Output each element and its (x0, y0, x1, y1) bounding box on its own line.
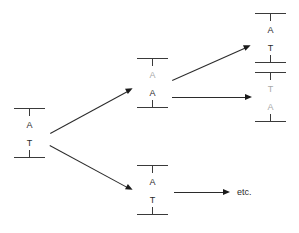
arrow-head-icon (223, 189, 230, 195)
duplex-top-base: A (137, 178, 168, 187)
arrow-shaft (50, 91, 128, 134)
etc-label: etc. (237, 187, 252, 197)
duplex-top-tick (152, 59, 153, 66)
arrow-shaft (174, 192, 224, 193)
duplex-top-tick (29, 109, 30, 116)
parent-duplex: A T (14, 108, 45, 164)
duplex-top-tick (270, 14, 271, 21)
duplex-bottom-bar (137, 214, 168, 215)
duplex-top-tick (270, 73, 271, 80)
arrow-parent-to-mismatch (50, 88, 133, 133)
duplex-bottom-tick (29, 150, 30, 157)
duplex-top-base: A (137, 71, 168, 80)
duplex-bottom-base: A (255, 103, 286, 112)
arrow-shaft (172, 97, 246, 98)
duplex-bottom-base: T (137, 196, 168, 205)
duplex-bottom-tick (152, 207, 153, 214)
duplex-top-base: A (255, 26, 286, 35)
duplex-bottom-base: T (255, 44, 286, 53)
arrow-head-icon (125, 86, 134, 95)
duplex-top-tick (152, 166, 153, 173)
duplex-top-base: T (255, 85, 286, 94)
arrow-mismatch-to-restored (172, 44, 252, 80)
normal-duplex: A T (137, 165, 168, 221)
arrow-shaft (172, 48, 246, 81)
restored-duplex: A T (255, 13, 286, 69)
arrow-head-icon (245, 94, 252, 100)
mismatch-duplex: A A (137, 58, 168, 114)
duplex-bottom-bar (255, 62, 286, 63)
arrow-parent-to-normal (50, 145, 133, 190)
arrow-shaft (50, 145, 128, 188)
arrow-head-icon (125, 184, 134, 193)
duplex-bottom-base: A (137, 89, 168, 98)
duplex-bottom-tick (270, 55, 271, 62)
arrow-head-icon (243, 42, 252, 50)
duplex-bottom-tick (270, 114, 271, 121)
duplex-top-base: A (14, 121, 45, 130)
duplex-bottom-bar (137, 107, 168, 108)
mutated-duplex: T A (255, 72, 286, 128)
duplex-bottom-base: T (14, 139, 45, 148)
duplex-bottom-bar (255, 121, 286, 122)
diagram-canvas: A T A A A T A T T A (0, 0, 299, 233)
duplex-bottom-bar (14, 157, 45, 158)
duplex-bottom-tick (152, 100, 153, 107)
